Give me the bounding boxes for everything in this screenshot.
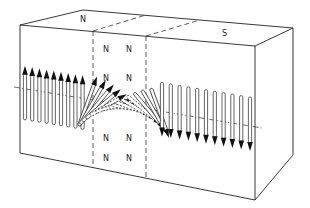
wall-n-label: N <box>103 74 109 83</box>
magnetization-arrow-icon <box>29 67 35 121</box>
wall-arrows <box>76 76 171 139</box>
magnetization-arrow-icon <box>230 94 236 148</box>
magnetization-arrow-icon <box>22 66 28 120</box>
magnetization-arrow-icon <box>51 71 57 125</box>
magnetization-arrow-icon <box>177 85 183 139</box>
wall-top-left-dash <box>93 15 146 31</box>
wall-top-right-dash <box>146 20 200 36</box>
left-domain-arrows <box>22 66 85 130</box>
magnetization-arrow-icon <box>203 90 209 144</box>
magnetization-arrow-icon <box>247 97 253 151</box>
magnetization-arrow-icon <box>186 87 192 141</box>
magnetization-arrow-icon <box>212 91 218 145</box>
domain-wall-diagram: N S N N N N N N N N <box>0 0 310 208</box>
wall-n-label: N <box>103 45 109 54</box>
right-domain-arrows <box>159 82 253 151</box>
magnetization-arrow-icon <box>168 84 174 138</box>
magnetization-arrow-icon <box>44 69 50 123</box>
wall-n-label: N <box>126 134 132 143</box>
top-face <box>20 10 293 46</box>
magnetization-arrow-icon <box>37 68 43 122</box>
magnetization-arrow-icon <box>73 74 79 128</box>
side-bottom-edge <box>255 155 293 200</box>
top-n-label: N <box>80 15 86 24</box>
magnetization-arrow-icon <box>65 73 71 127</box>
front-bottom-edge <box>20 153 255 200</box>
wall-n-label: N <box>126 45 132 54</box>
wall-n-label: N <box>103 134 109 143</box>
wall-n-label: N <box>126 154 132 163</box>
wall-n-label: N <box>126 74 132 83</box>
magnetization-arrow-icon <box>58 72 64 126</box>
wall-n-label: N <box>103 154 109 163</box>
top-s-label: S <box>222 29 227 38</box>
magnetization-arrow-icon <box>238 96 244 150</box>
magnetization-arrow-icon <box>194 88 200 142</box>
magnetization-arrow-icon <box>221 93 227 147</box>
